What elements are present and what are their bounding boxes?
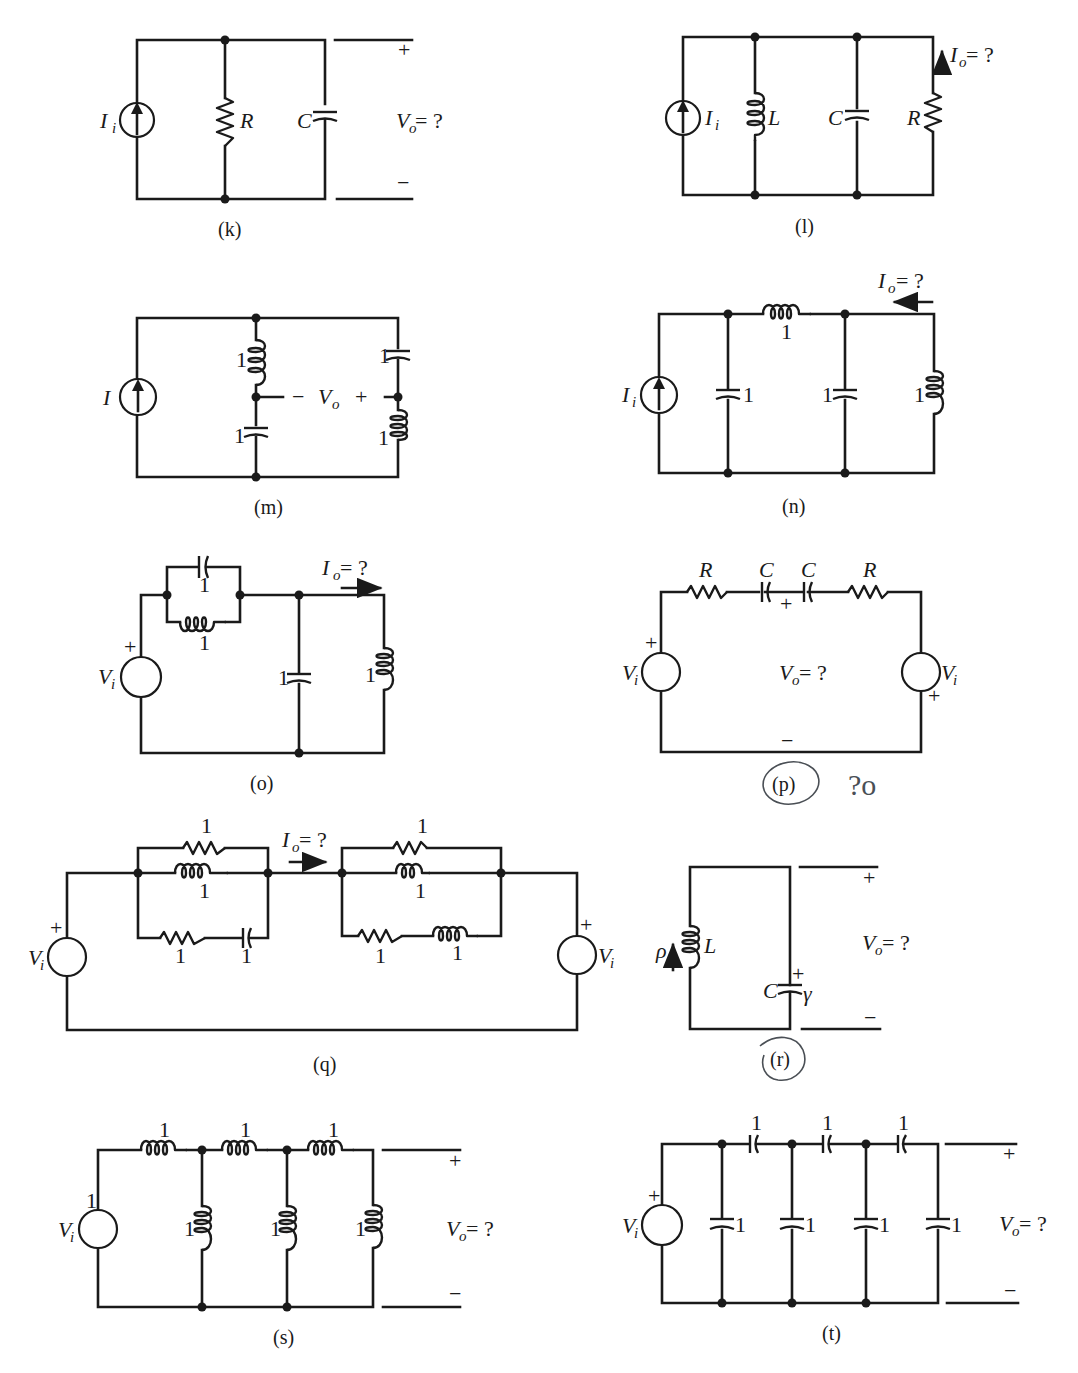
inductor-icon <box>683 926 700 968</box>
voltage-source-icon <box>48 938 86 976</box>
svg-text:1: 1 <box>805 1212 816 1237</box>
svg-text:1: 1 <box>175 943 186 968</box>
inductor-icon <box>195 1206 212 1250</box>
inductor-icon <box>222 1141 268 1155</box>
svg-text:+: + <box>928 683 940 708</box>
caption: (n) <box>782 495 805 518</box>
svg-text:R: R <box>906 105 921 130</box>
inductor-icon <box>308 1141 354 1155</box>
wire <box>659 314 934 473</box>
capacitor-icon <box>780 1219 804 1229</box>
inductor-icon <box>141 1141 187 1155</box>
svg-text:ρ: ρ <box>655 938 667 963</box>
capacitor-icon <box>710 1219 734 1229</box>
svg-text:C: C <box>763 978 778 1003</box>
svg-text:1: 1 <box>914 382 925 407</box>
svg-text:−: − <box>781 728 793 753</box>
svg-text:R: R <box>239 108 254 133</box>
resistor-icon <box>687 586 727 598</box>
capacitor-icon <box>854 1219 878 1229</box>
svg-text:1: 1 <box>879 1212 890 1237</box>
svg-text:+: + <box>780 591 792 616</box>
svg-text:1: 1 <box>898 1110 909 1135</box>
caption: (t) <box>822 1322 841 1345</box>
svg-text:C: C <box>801 557 816 582</box>
resistor-icon <box>217 98 233 146</box>
svg-text:1: 1 <box>415 878 426 903</box>
voltage-source-icon <box>558 936 596 974</box>
circuit-t: + V i 1 1 1 1 1 1 1 + − V o = ? (t) <box>622 1110 1047 1345</box>
svg-text:= ?: = ? <box>466 1216 494 1241</box>
resistor-icon <box>848 586 888 598</box>
svg-text:C: C <box>297 108 312 133</box>
capacitor-icon <box>244 428 268 437</box>
svg-text:= ?: = ? <box>415 108 443 133</box>
capacitor-icon <box>926 1219 950 1229</box>
svg-text:= ?: = ? <box>896 268 924 293</box>
svg-text:C: C <box>759 557 774 582</box>
resistor-icon <box>925 93 941 132</box>
svg-text:i: i <box>111 676 115 692</box>
svg-text:1: 1 <box>735 1212 746 1237</box>
svg-text:= ?: = ? <box>882 930 910 955</box>
svg-text:= ?: = ? <box>1019 1211 1047 1236</box>
svg-text:1: 1 <box>184 1216 195 1241</box>
svg-text:1: 1 <box>743 382 754 407</box>
inductor-icon <box>180 618 226 632</box>
svg-text:= ?: = ? <box>299 827 327 852</box>
voltage-source-icon <box>642 1205 682 1245</box>
inductor-icon <box>249 340 266 385</box>
wire <box>98 1150 373 1307</box>
caption: (k) <box>218 218 241 241</box>
current-source-icon <box>120 102 154 137</box>
resistor-icon <box>393 842 427 854</box>
resistor-icon <box>183 842 225 854</box>
capacitor-icon <box>287 674 311 683</box>
svg-text:I: I <box>877 268 887 293</box>
circuit-r: L ρ C + γ + − V o = ? (r) <box>655 865 910 1080</box>
svg-text:1: 1 <box>234 423 245 448</box>
circuit-p: + V i V i + R C C R + − V o = ? (p) ?o <box>622 557 957 808</box>
circuit-k: I i R C + − V o = ? (k) <box>99 36 443 242</box>
inductor-icon <box>396 864 430 878</box>
svg-text:L: L <box>703 933 716 958</box>
svg-text:i: i <box>112 120 116 136</box>
capacitor-icon <box>833 390 857 399</box>
svg-text:1: 1 <box>822 1110 833 1135</box>
svg-text:1: 1 <box>86 1188 97 1213</box>
svg-text:i: i <box>610 955 614 971</box>
inductor-icon <box>280 1206 297 1250</box>
current-source-icon <box>120 379 156 415</box>
inductor-icon <box>748 93 765 141</box>
svg-text:1: 1 <box>365 662 376 687</box>
svg-text:i: i <box>715 117 719 133</box>
svg-text:I: I <box>704 105 714 130</box>
svg-text:1: 1 <box>159 1117 170 1142</box>
circuit-n: I i 1 1 1 1 I o = ? (n) <box>621 268 943 518</box>
current-source-icon <box>641 377 677 413</box>
svg-text:1: 1 <box>951 1212 962 1237</box>
svg-text:= ?: = ? <box>340 555 368 580</box>
svg-text:1: 1 <box>417 813 428 838</box>
wire <box>683 37 933 195</box>
inductor-icon <box>927 371 944 414</box>
svg-text:i: i <box>634 1225 638 1241</box>
caption: (p) <box>772 773 795 796</box>
svg-text:o: o <box>332 396 340 412</box>
caption: (l) <box>795 215 814 238</box>
svg-text:γ: γ <box>803 981 813 1006</box>
caption: (q) <box>313 1053 336 1076</box>
inductor-icon <box>377 648 394 690</box>
svg-text:−: − <box>864 1005 876 1030</box>
svg-text:+: + <box>645 630 657 655</box>
svg-text:i: i <box>953 672 957 688</box>
svg-text:+: + <box>355 384 367 409</box>
svg-text:I: I <box>321 555 331 580</box>
svg-text:I: I <box>949 42 959 67</box>
svg-text:i: i <box>70 1229 74 1245</box>
svg-text:−: − <box>1004 1278 1016 1303</box>
capacitor-icon <box>845 111 869 120</box>
svg-text:1: 1 <box>241 943 252 968</box>
svg-text:i: i <box>632 394 636 410</box>
circuit-q: 1 1 1 1 1 1 1 1 + V i + V i I o = ? (q) <box>28 813 614 1076</box>
